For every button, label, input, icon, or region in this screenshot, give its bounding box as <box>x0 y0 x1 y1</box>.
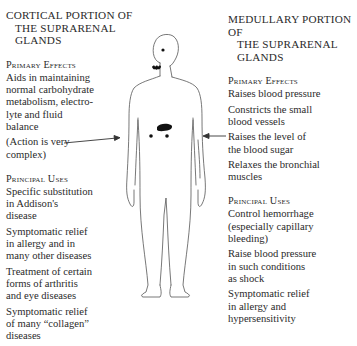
cortical-principal-uses: Principal Uses Specific substitution in … <box>6 173 141 343</box>
line: Specific substitution <box>15 186 141 198</box>
title-line: THE SUPRARENAL <box>6 22 141 35</box>
line: diseases <box>15 330 141 342</box>
thyroid-gland <box>152 66 161 70</box>
line: disease <box>15 210 141 222</box>
medullary-principal-uses: Principal Uses Control hemorrhage (espec… <box>228 195 357 325</box>
pituitary-gland-dot <box>161 48 164 51</box>
list-item: Raise blood pressure in such conditions … <box>228 248 357 285</box>
line: in allergy and <box>237 301 357 313</box>
list-item: Symptomatic relief in allergy and in man… <box>6 226 141 263</box>
title-line: GLANDS <box>228 51 357 64</box>
line: metabolism, electro- <box>15 96 141 108</box>
line: Relaxes the bronchial <box>237 159 357 171</box>
suprarenal-gland-right-dot <box>165 134 169 138</box>
gland-markers <box>149 48 172 137</box>
line: blood vessels <box>237 116 357 128</box>
line: Raises blood pressure <box>237 88 357 100</box>
list-item: Raises the level of the blood sugar <box>228 131 357 156</box>
title-line: THE SUPRARENAL <box>228 38 357 51</box>
list-item: (Action is very complex) <box>6 136 141 161</box>
line: many other diseases <box>15 250 141 262</box>
line: Control hemorrhage <box>237 208 357 220</box>
line: Aids in maintaining <box>15 72 141 84</box>
line: balance <box>15 121 141 133</box>
line: and eye diseases <box>15 290 141 302</box>
line: the blood sugar <box>237 144 357 156</box>
line: Symptomatic relief <box>15 226 141 238</box>
list-item: Control hemorrhage (especially capillary… <box>228 208 357 245</box>
cortical-title: CORTICAL PORTION OF THE SUPRARENAL GLAND… <box>6 9 141 47</box>
list-item: Symptomatic relief of many “collagen” di… <box>6 306 141 343</box>
title-line: MEDULLARY PORTION OF <box>228 13 357 38</box>
line: lyte and fluid <box>15 109 141 121</box>
line: complex) <box>15 149 141 161</box>
list-item: Relaxes the bronchial muscles <box>228 159 357 184</box>
cortical-primary-effects: Primary Effects Aids in maintaining norm… <box>6 59 141 161</box>
pancreas-gland <box>157 124 172 131</box>
line: hypersensitivity <box>237 313 357 325</box>
line: as shock <box>237 273 357 285</box>
medullary-primary-effects: Primary Effects Raises blood pressure Co… <box>228 75 357 183</box>
list-item: Aids in maintaining normal carbohydrate … <box>6 72 141 133</box>
cortical-column: CORTICAL PORTION OF THE SUPRARENAL GLAND… <box>6 9 141 345</box>
list-item: Symptomatic relief in allergy and hypers… <box>228 288 357 325</box>
line: in Addison's <box>15 198 141 210</box>
list-item: Constricts the small blood vessels <box>228 104 357 129</box>
line: normal carbohydrate <box>15 84 141 96</box>
line: Raise blood pressure <box>237 248 357 260</box>
suprarenal-gland-left-dot <box>149 134 153 138</box>
list-item: Raises blood pressure <box>228 88 357 100</box>
list-item: Treatment of certain forms of arthritis … <box>6 266 141 303</box>
line: (especially capillary <box>237 221 357 233</box>
line: Symptomatic relief <box>237 288 357 300</box>
line: Treatment of certain <box>15 266 141 278</box>
line: muscles <box>237 171 357 183</box>
medullary-arrow-head <box>203 134 209 139</box>
line: in such conditions <box>237 261 357 273</box>
section-heading: Principal Uses <box>6 173 141 185</box>
medullary-column: MEDULLARY PORTION OF THE SUPRARENAL GLAN… <box>228 13 357 328</box>
section-heading: Primary Effects <box>6 59 141 71</box>
list-item: Specific substitution in Addison's disea… <box>6 186 141 223</box>
section-heading: Primary Effects <box>228 75 357 87</box>
line: in allergy and in <box>15 238 141 250</box>
line: (Action is very <box>15 136 141 148</box>
title-line: GLANDS <box>6 34 141 47</box>
line: of many “collagen” <box>15 318 141 330</box>
line: forms of arthritis <box>15 278 141 290</box>
line: bleeding) <box>237 233 357 245</box>
line: Raises the level of <box>237 131 357 143</box>
line: Constricts the small <box>237 104 357 116</box>
line: Symptomatic relief <box>15 306 141 318</box>
title-line: CORTICAL PORTION OF <box>6 9 141 22</box>
section-heading: Principal Uses <box>228 195 357 207</box>
medullary-title: MEDULLARY PORTION OF THE SUPRARENAL GLAN… <box>228 13 357 63</box>
